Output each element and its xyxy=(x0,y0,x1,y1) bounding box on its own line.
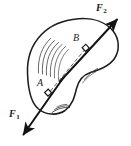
point-label-a: A xyxy=(37,78,43,88)
point-label-b: B xyxy=(73,33,79,43)
force-subscript-f2: 2 xyxy=(103,7,107,15)
body-hatch-upper-left xyxy=(38,39,68,81)
force-label-f1: F1 xyxy=(9,109,20,121)
force-diagram-figure: F2 F1 A B xyxy=(0,0,131,146)
diagram-canvas xyxy=(0,0,131,146)
force-subscript-f1: 1 xyxy=(16,113,20,121)
force-label-f2: F2 xyxy=(96,3,107,15)
force-symbol-f1: F xyxy=(9,108,16,119)
line-of-action xyxy=(51,51,85,92)
force-vector-f2 xyxy=(60,20,117,82)
force-vector-f1 xyxy=(24,78,64,135)
force-symbol-f2: F xyxy=(96,2,103,13)
